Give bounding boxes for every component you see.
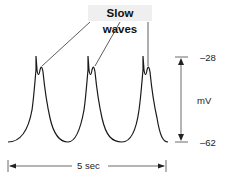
arrow-right-icon	[158, 164, 165, 169]
waveform-diagram	[0, 0, 225, 181]
voltage-scale-bar	[175, 57, 188, 142]
time-scale-label: 5 sec	[77, 160, 100, 171]
voltage-bottom-label: –62	[200, 137, 216, 148]
voltage-unit-label: mV	[197, 95, 211, 106]
arrow-left-icon	[9, 164, 16, 169]
pointer-line-1	[42, 22, 90, 66]
membrane-potential-trace	[8, 56, 168, 142]
pointer-lines	[42, 22, 148, 66]
arrow-down-icon	[178, 134, 184, 141]
voltage-top-label: –28	[200, 52, 216, 63]
pointer-line-2	[95, 22, 120, 66]
arrow-up-icon	[178, 58, 184, 65]
